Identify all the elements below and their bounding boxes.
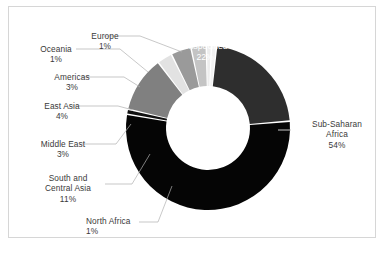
slice-label-oceania-value: 1%: [23, 54, 89, 64]
slice-label-south-central-asia-name-line2: Central Asia: [29, 183, 107, 193]
slice-label-east-asia: East Asia 4%: [26, 101, 98, 122]
slice-label-europe-name: Europe: [74, 31, 136, 41]
slice-label-subsaharan-africa-name-line2: Africa: [295, 129, 379, 139]
slice-label-south-central-asia-name-line1: South and: [29, 173, 107, 183]
donut-chart-figure: Unspecified 22% Sub-Saharan Africa 54% N…: [0, 0, 385, 261]
slice-label-middle-east-value: 3%: [22, 149, 104, 159]
slice-label-east-asia-name: East Asia: [26, 101, 98, 111]
slice-label-middle-east: Middle East 3%: [22, 139, 104, 160]
slice-label-americas-name: Americas: [36, 72, 108, 82]
donut-slice-sub-saharan-africa[interactable]: [126, 115, 290, 210]
slice-label-unspecified-value: 22%: [150, 52, 260, 63]
slice-label-north-africa: North Africa 1%: [86, 216, 192, 237]
slice-label-americas: Americas 3%: [36, 72, 108, 93]
slice-label-east-asia-value: 4%: [26, 111, 98, 121]
slice-label-south-central-asia-value: 11%: [29, 194, 107, 204]
slice-label-americas-value: 3%: [36, 82, 108, 92]
slice-label-middle-east-name: Middle East: [22, 139, 104, 149]
slice-label-europe-value: 1%: [74, 41, 136, 51]
slice-label-subsaharan-africa-value: 54%: [295, 140, 379, 150]
slice-label-subsaharan-africa-name-line1: Sub-Saharan: [295, 119, 379, 129]
slice-label-north-africa-name: North Africa: [86, 216, 192, 226]
slice-label-subsaharan-africa: Sub-Saharan Africa 54%: [295, 119, 379, 150]
slice-label-europe: Europe 1%: [74, 31, 136, 52]
slice-label-north-africa-value: 1%: [86, 226, 192, 236]
slice-label-unspecified-name: Unspecified: [150, 41, 260, 52]
slice-label-south-central-asia: South and Central Asia 11%: [29, 173, 107, 204]
donut-slices-group: [126, 46, 290, 210]
slice-label-unspecified: Unspecified 22%: [150, 41, 260, 63]
